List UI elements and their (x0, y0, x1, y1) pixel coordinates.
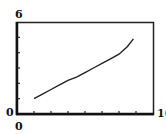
data-line (34, 39, 133, 99)
tick-marks (17, 37, 136, 114)
plot-frame (17, 23, 154, 115)
line-chart (0, 0, 166, 134)
